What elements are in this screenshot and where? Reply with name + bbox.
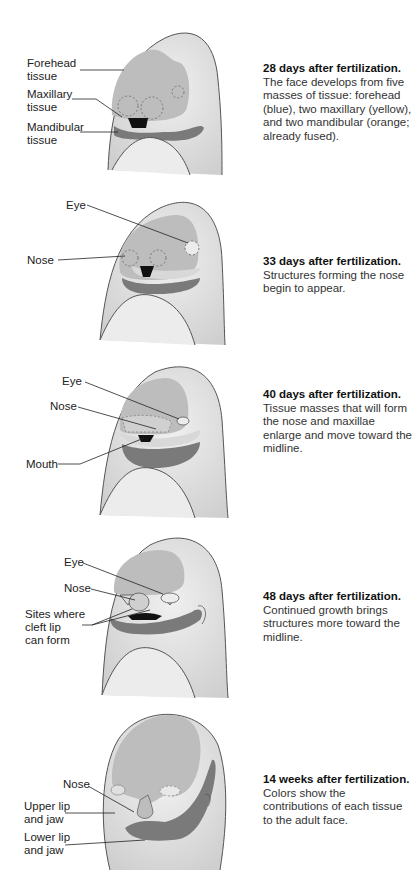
caption-14-weeks: 14 weeks after fertilization. Colors sho…: [263, 773, 413, 827]
caption-heading: 40 days after fertilization.: [263, 388, 413, 402]
caption-40-days: 40 days after fertilization. Tissue mass…: [263, 388, 413, 456]
label-eye: Eye: [64, 556, 84, 569]
label-upper-lip-and-jaw: Upper lip and jaw: [24, 800, 70, 826]
stage-40-days: Eye Nose Mouth 40 days after fertilizati…: [0, 350, 415, 520]
label-maxillary-tissue: Maxillary tissue: [27, 88, 72, 114]
label-mandibular-tissue: Mandibular tissue: [27, 121, 84, 147]
caption-heading: 48 days after fertilization.: [263, 590, 413, 604]
caption-28-days: 28 days after fertilization. The face de…: [263, 62, 413, 143]
label-cleft-lip-sites: Sites where cleft lip can form: [25, 608, 85, 647]
stage-14-weeks: Nose Upper lip and jaw Lower lip and jaw…: [0, 700, 415, 874]
label-eye: Eye: [62, 375, 82, 388]
leader-line-nose: [58, 256, 125, 260]
caption-description: The face develops from five masses of ti…: [263, 76, 411, 142]
caption-description: Colors show the contributions of each ti…: [263, 787, 402, 826]
caption-heading: 28 days after fertilization.: [263, 62, 413, 76]
caption-heading: 33 days after fertilization.: [263, 255, 413, 269]
label-lower-lip-and-jaw: Lower lip and jaw: [24, 831, 70, 857]
label-mouth: Mouth: [26, 458, 58, 471]
caption-description: Tissue masses that will form the nose an…: [263, 402, 412, 455]
stage-28-days: Forehead tissue Maxillary tissue Mandibu…: [0, 0, 415, 180]
caption-description: Structures forming the nose begin to app…: [263, 269, 404, 295]
caption-heading: 14 weeks after fertilization.: [263, 773, 413, 787]
label-nose: Nose: [64, 582, 91, 595]
label-nose: Nose: [27, 254, 54, 267]
caption-description: Continued growth brings structures more …: [263, 604, 400, 643]
stage-33-days: Eye Nose 33 days after fertilization. St…: [0, 180, 415, 350]
caption-48-days: 48 days after fertilization. Continued g…: [263, 590, 413, 644]
stage-48-days: Eye Nose Sites where cleft lip can form …: [0, 520, 415, 700]
label-nose: Nose: [50, 400, 77, 413]
caption-33-days: 33 days after fertilization. Structures …: [263, 255, 413, 296]
label-forehead-tissue: Forehead tissue: [27, 57, 76, 83]
label-eye: Eye: [66, 199, 86, 212]
label-nose: Nose: [63, 778, 90, 791]
